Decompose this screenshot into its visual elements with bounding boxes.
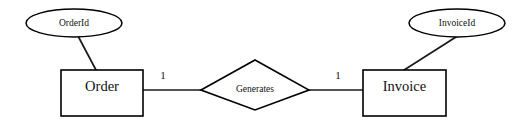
relationship-label-generates: Generates [236,84,274,94]
attribute-label-invoiceid: InvoiceId [439,18,476,28]
cardinality-label-left: 1 [160,69,166,81]
er-diagram-svg: OrderId InvoiceId Order Invoice Generate… [0,0,529,128]
cardinality-label-right: 1 [335,69,341,81]
entity-label-order: Order [85,78,119,94]
er-diagram-canvas: OrderId InvoiceId Order Invoice Generate… [0,0,529,128]
entity-label-invoice: Invoice [383,78,426,94]
connector-orderid-to-order [78,36,96,70]
attribute-label-orderid: OrderId [59,18,89,28]
connector-invoiceid-to-invoice [404,37,456,70]
